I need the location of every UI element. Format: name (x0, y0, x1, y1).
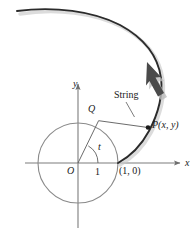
radius-segment-OQ (78, 121, 99, 163)
x-axis-label: x (185, 158, 189, 168)
point-label-P: P(x, y) (152, 120, 179, 130)
point-label-one-zero: (1, 0) (119, 166, 141, 176)
angle-label-t: t (98, 142, 101, 152)
string-label: String (114, 90, 138, 100)
point-marker-P (146, 125, 151, 130)
string-segment-QP (99, 121, 148, 128)
point-label-Q: Q (88, 104, 95, 114)
unit-tick-label: 1 (95, 167, 100, 177)
y-axis-label: y (73, 79, 77, 89)
string-label-leader-line (126, 102, 135, 117)
involute-of-circle-figure: y x O 1 t Q String P(x, y) (1, 0) (0, 0, 196, 240)
angle-arc-t (88, 146, 98, 163)
origin-label: O (67, 166, 74, 176)
